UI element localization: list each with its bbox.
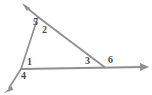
right-arrowhead bbox=[140, 63, 149, 71]
transversal-lower-extension bbox=[9, 69, 21, 88]
angle-label-4: 4 bbox=[21, 71, 26, 81]
angle-label-3: 3 bbox=[85, 56, 90, 66]
base-segment bbox=[21, 67, 143, 69]
angle-label-2: 2 bbox=[42, 25, 47, 35]
hypotenuse-segment bbox=[38, 17, 105, 68]
angle-label-5: 5 bbox=[33, 17, 38, 27]
geometry-figure: 1 2 3 4 5 6 bbox=[0, 0, 152, 95]
angle-label-1: 1 bbox=[27, 57, 32, 67]
angle-label-6: 6 bbox=[108, 55, 113, 65]
